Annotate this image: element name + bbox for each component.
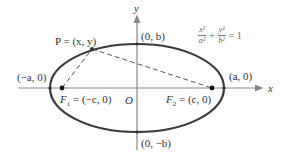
vertex-bottom-point xyxy=(135,130,138,133)
focus-2-point xyxy=(210,86,215,91)
top-vertex-label: (0, b) xyxy=(141,31,165,42)
focus-1-point xyxy=(60,86,65,91)
left-vertex-label: (−a, 0) xyxy=(17,72,46,83)
point-p xyxy=(90,47,94,51)
origin-label: O xyxy=(125,95,133,106)
vertex-right-point xyxy=(222,86,225,89)
focal-line-1 xyxy=(62,49,92,88)
focus-1-label: F1 = (−c, 0) xyxy=(60,94,111,108)
y-term: y² b² xyxy=(218,26,226,45)
y-axis-label: y xyxy=(134,3,139,14)
vertex-left-point xyxy=(48,86,51,89)
x-term: x² a² xyxy=(198,26,206,45)
x-axis-label: x xyxy=(268,83,273,94)
focus-2-label: F2 = (c, 0) xyxy=(166,94,211,108)
bottom-vertex-label: (0, −b) xyxy=(141,138,171,149)
ellipse-equation: x² a² + y² b² = 1 xyxy=(198,26,242,45)
vertex-top-point xyxy=(135,42,138,45)
right-vertex-label: (a, 0) xyxy=(229,71,252,82)
ellipse-diagram: y x O (0, b) (0, −b) (−a, 0) (a, 0) P = … xyxy=(0,0,285,156)
point-p-label: P = (x, y) xyxy=(55,36,96,47)
